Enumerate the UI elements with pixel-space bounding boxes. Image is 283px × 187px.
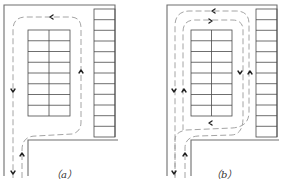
arrow-right-icon — [209, 19, 212, 23]
diagram-canvas — [0, 0, 283, 187]
panel-b-inner-loop — [183, 20, 243, 178]
panel-b-central-parking-block — [191, 30, 232, 116]
arrow-left-icon — [50, 15, 53, 19]
panel-a — [4, 5, 118, 178]
panel-b-caption: （b） — [211, 166, 237, 181]
panel-b — [167, 5, 279, 178]
panel-a-central-parking-block — [28, 30, 70, 116]
arrow-left-icon — [209, 121, 212, 125]
panel-b-side-parking-column — [256, 9, 277, 137]
arrow-down-icon — [11, 171, 15, 174]
arrow-down-icon — [11, 89, 15, 92]
arrow-down-icon — [238, 71, 242, 74]
panel-a-side-parking-column — [94, 9, 115, 137]
panel-a-caption: （a） — [51, 166, 77, 181]
